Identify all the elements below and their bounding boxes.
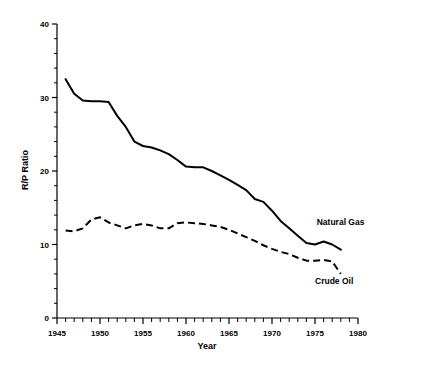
y-tick-label: 30 <box>40 94 49 103</box>
chart-container: 010203040 R/P Ratio 19451950195519601965… <box>0 0 427 366</box>
x-tick-label: 1950 <box>91 329 109 338</box>
x-axis-major-ticks <box>57 318 358 324</box>
y-axis-group: 010203040 R/P Ratio <box>20 20 57 323</box>
series-inline-labels: Natural GasCrude Oil <box>315 217 365 287</box>
x-axis-group: 19451950195519601965197019751980 Year <box>48 318 367 351</box>
x-tick-label: 1960 <box>177 329 195 338</box>
y-axis-tick-labels: 010203040 <box>40 20 49 323</box>
x-axis-title: Year <box>197 341 217 351</box>
x-tick-label: 1945 <box>48 329 66 338</box>
y-tick-label: 10 <box>40 241 49 250</box>
series-inline-label: Crude Oil <box>315 276 353 286</box>
series-line-crude-oil <box>66 217 341 274</box>
y-tick-label: 40 <box>40 20 49 29</box>
series-group <box>66 79 341 274</box>
x-tick-label: 1980 <box>349 329 367 338</box>
x-axis-tick-labels: 19451950195519601965197019751980 <box>48 329 367 338</box>
series-inline-label: Natural Gas <box>317 217 365 227</box>
y-axis-title: R/P Ratio <box>20 150 30 190</box>
x-tick-label: 1975 <box>306 329 324 338</box>
rp-ratio-line-chart: 010203040 R/P Ratio 19451950195519601965… <box>0 0 427 366</box>
x-tick-label: 1970 <box>263 329 281 338</box>
y-tick-label: 20 <box>40 167 49 176</box>
y-tick-label: 0 <box>45 314 50 323</box>
x-tick-label: 1955 <box>134 329 152 338</box>
x-tick-label: 1965 <box>220 329 238 338</box>
